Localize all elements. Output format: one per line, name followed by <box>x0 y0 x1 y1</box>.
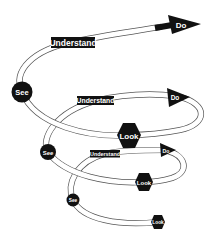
svg-text:See: See <box>15 88 28 97</box>
svg-text:See: See <box>69 198 78 203</box>
understand-label-2: Understand <box>90 150 120 158</box>
spiral-tube <box>20 25 201 223</box>
look-node-3: Look <box>151 215 165 229</box>
svg-text:Look: Look <box>152 220 164 225</box>
svg-text:Do: Do <box>176 21 187 30</box>
do-arrow-1: Do <box>167 88 190 107</box>
top-do-arrow: Do <box>168 15 201 34</box>
see-node-2: See <box>40 144 56 160</box>
svg-text:Look: Look <box>119 132 139 141</box>
see-node-3: See <box>67 194 80 207</box>
look-node-2: Look <box>135 173 153 191</box>
spiral-diagram: Understand Do See Understand Do Look See… <box>0 0 217 243</box>
see-node-1: See <box>12 82 33 103</box>
svg-text:Understand: Understand <box>77 97 115 104</box>
svg-text:Do: Do <box>171 94 180 101</box>
svg-text:Understand: Understand <box>49 38 96 48</box>
svg-text:Do: Do <box>163 148 170 154</box>
svg-text:Look: Look <box>137 180 152 186</box>
look-node-1: Look <box>117 123 141 148</box>
svg-text:Understand: Understand <box>90 151 120 157</box>
svg-text:See: See <box>43 150 54 156</box>
top-understand-label: Understand <box>49 37 96 48</box>
understand-label-1: Understand <box>77 96 115 105</box>
